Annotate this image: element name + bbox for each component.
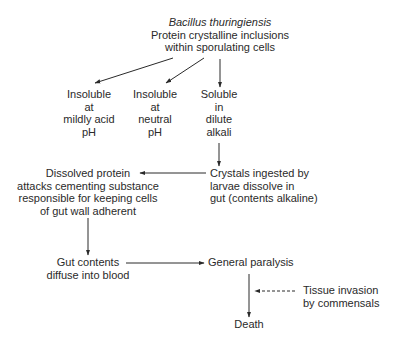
node-text-line: Insoluble — [133, 88, 177, 101]
node-gut-contents: Gut contents diffuse into blood — [47, 256, 130, 281]
node-text-line: by commensals — [303, 297, 379, 310]
node-text-line: larvae dissolve in — [210, 180, 318, 193]
edge-source-to-insoluble-acid — [95, 58, 173, 83]
node-text-line: of gut wall adherent — [17, 205, 159, 218]
node-text-line: Soluble — [201, 88, 238, 101]
node-text-line: attacks cementing substance — [17, 180, 159, 193]
node-dissolved-protein: Dissolved protein attacks cementing subs… — [17, 167, 159, 217]
node-text-line: alkali — [201, 126, 238, 139]
node-text-line: diffuse into blood — [47, 269, 130, 282]
node-insoluble-acid: Insoluble at mildly acid pH — [63, 88, 114, 138]
node-text-line: dilute — [201, 113, 238, 126]
node-text-line: Crystals ingested by — [210, 167, 318, 180]
node-text-line: Death — [234, 318, 263, 331]
node-general-paralysis: General paralysis — [208, 256, 294, 269]
node-text-line: pH — [133, 126, 177, 139]
node-text-line: within sporulating cells — [151, 41, 289, 54]
node-tissue-invasion: Tissue invasion by commensals — [303, 284, 379, 309]
node-text-line: Insoluble — [63, 88, 114, 101]
node-text-line: mildly acid — [63, 113, 114, 126]
edge-source-to-insoluble-neutral — [166, 58, 204, 83]
node-source: Bacillus thuringiensis Protein crystalli… — [151, 16, 289, 54]
node-text-line: in — [201, 101, 238, 114]
node-crystals-ingested: Crystals ingested by larvae dissolve in … — [210, 167, 318, 205]
node-text-line: responsible for keeping cells — [17, 192, 159, 205]
node-text-line: pH — [63, 126, 114, 139]
node-text-line: Tissue invasion — [303, 284, 379, 297]
node-text-line: Protein crystalline inclusions — [151, 29, 289, 42]
node-text-line: Dissolved protein — [17, 167, 159, 180]
node-text-line: at — [133, 101, 177, 114]
node-text-line: gut (contents alkaline) — [210, 192, 318, 205]
node-text-line: at — [63, 101, 114, 114]
node-insoluble-neutral: Insoluble at neutral pH — [133, 88, 177, 138]
node-soluble-alkali: Soluble in dilute alkali — [201, 88, 238, 138]
node-text-line: neutral — [133, 113, 177, 126]
node-text-line: General paralysis — [208, 256, 294, 269]
node-death: Death — [234, 318, 263, 331]
node-text-line: Gut contents — [47, 256, 130, 269]
organism-name: Bacillus thuringiensis — [151, 16, 289, 29]
